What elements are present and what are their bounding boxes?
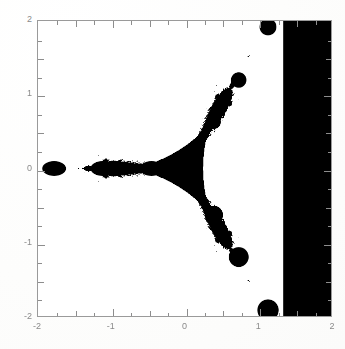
x-axis-tick — [150, 311, 151, 317]
x-axis-tick — [297, 21, 298, 27]
x-axis-tick — [316, 21, 317, 25]
y-axis-tick — [38, 78, 42, 79]
y-axis-tick — [326, 282, 332, 283]
y-axis-tick — [38, 41, 42, 42]
y-axis-label: -1 — [10, 238, 32, 247]
y-axis-tick — [328, 263, 332, 264]
y-axis-tick — [324, 171, 331, 172]
y-axis-tick — [328, 115, 332, 116]
plot-frame — [37, 20, 332, 317]
y-axis-tick — [324, 96, 331, 97]
x-axis-tick — [223, 21, 224, 27]
x-axis-label: 2 — [320, 322, 344, 331]
x-axis-tick — [316, 313, 317, 317]
x-axis-label: -2 — [25, 322, 49, 331]
y-axis-tick — [328, 41, 332, 42]
y-axis-tick — [324, 245, 331, 246]
fractal-plot-area — [38, 21, 331, 316]
y-axis-tick — [38, 245, 45, 246]
x-axis-tick — [205, 21, 206, 25]
x-axis-tick — [223, 311, 224, 317]
x-axis-tick — [57, 313, 58, 317]
y-axis-tick — [38, 59, 44, 60]
y-axis-tick — [38, 300, 42, 301]
x-axis-tick — [279, 21, 280, 25]
x-axis-tick — [242, 313, 243, 317]
x-axis-tick — [76, 311, 77, 317]
y-axis-tick — [38, 171, 45, 172]
x-axis-tick — [260, 309, 261, 316]
x-axis-tick — [94, 21, 95, 25]
x-axis-tick — [187, 21, 188, 28]
y-axis-tick — [328, 300, 332, 301]
y-axis-tick — [328, 189, 332, 190]
x-axis-tick — [187, 309, 188, 316]
y-axis-tick — [38, 189, 42, 190]
x-axis-tick — [279, 313, 280, 317]
x-axis-tick — [168, 21, 169, 25]
y-axis-tick — [38, 96, 45, 97]
x-axis-tick — [260, 21, 261, 28]
figure-page: 210-1-2-2-1012 — [0, 0, 345, 349]
x-axis-tick — [94, 313, 95, 317]
x-axis-label: -1 — [99, 322, 123, 331]
x-axis-label: 1 — [246, 322, 270, 331]
y-axis-tick — [328, 226, 332, 227]
y-axis-tick — [328, 152, 332, 153]
x-axis-tick — [113, 309, 114, 316]
x-axis-tick — [57, 21, 58, 25]
x-axis-tick — [131, 313, 132, 317]
x-axis-label: 0 — [173, 322, 197, 331]
y-axis-tick — [38, 282, 44, 283]
y-axis-tick — [38, 226, 42, 227]
x-axis-tick — [297, 311, 298, 317]
x-axis-tick — [131, 21, 132, 25]
y-axis-label: -2 — [10, 312, 32, 321]
x-axis-tick — [168, 313, 169, 317]
y-axis-tick — [326, 59, 332, 60]
y-axis-tick — [326, 208, 332, 209]
y-axis-label: 0 — [10, 164, 32, 173]
x-axis-tick — [242, 21, 243, 25]
x-axis-tick — [150, 21, 151, 27]
y-axis-tick — [38, 208, 44, 209]
y-axis-label: 1 — [10, 89, 32, 98]
x-axis-tick — [76, 21, 77, 27]
x-axis-tick — [205, 313, 206, 317]
x-axis-tick — [113, 21, 114, 28]
y-axis-tick — [38, 133, 44, 134]
y-axis-tick — [328, 78, 332, 79]
y-axis-tick — [38, 115, 42, 116]
y-axis-tick — [38, 152, 42, 153]
y-axis-tick — [38, 263, 42, 264]
y-axis-label: 2 — [10, 15, 32, 24]
y-axis-tick — [326, 133, 332, 134]
